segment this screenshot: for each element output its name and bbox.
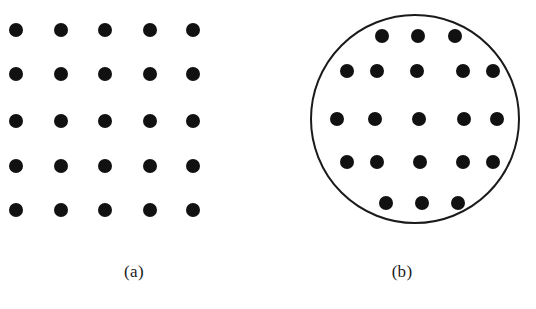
panel-a-dot xyxy=(143,203,157,217)
panel-b-dot xyxy=(413,155,427,169)
panel-a-dot xyxy=(186,159,200,173)
panel-a-dot xyxy=(98,23,112,37)
figure-root: (a) (b) xyxy=(0,0,536,309)
panel-b-dot xyxy=(370,64,384,78)
panel-b-dot xyxy=(451,196,465,210)
panel-a-dot xyxy=(9,114,23,128)
panel-b-dot xyxy=(340,64,354,78)
panel-b-dot xyxy=(368,112,382,126)
panel-b-dot xyxy=(375,29,389,43)
panel-a-dot xyxy=(98,203,112,217)
panel-b-dot xyxy=(448,29,462,43)
panel-b-dot xyxy=(410,64,424,78)
panel-a: (a) xyxy=(0,0,268,309)
panel-b-dot xyxy=(486,155,500,169)
panel-a-dot xyxy=(143,23,157,37)
panel-a-dot xyxy=(186,23,200,37)
panel-b-dot xyxy=(490,112,504,126)
panel-b-dot xyxy=(457,112,471,126)
panel-a-dot xyxy=(54,114,68,128)
panel-b-dot xyxy=(330,112,344,126)
panel-a-dot xyxy=(9,67,23,81)
panel-a-caption: (a) xyxy=(0,262,268,282)
panel-b-dot xyxy=(340,155,354,169)
panel-b-dot xyxy=(411,29,425,43)
panel-a-dot xyxy=(9,23,23,37)
panel-b-dot xyxy=(456,155,470,169)
panel-b-plot-area xyxy=(268,0,536,245)
panel-a-dot xyxy=(186,114,200,128)
panel-a-dot xyxy=(54,159,68,173)
panel-b-dot xyxy=(456,64,470,78)
panel-a-dot xyxy=(9,203,23,217)
panel-b-dot xyxy=(412,112,426,126)
panel-a-dot xyxy=(98,67,112,81)
panel-b-dot xyxy=(379,196,393,210)
panel-a-dot xyxy=(54,23,68,37)
panel-b-dot xyxy=(415,196,429,210)
panel-a-dot xyxy=(186,203,200,217)
panel-a-plot-area xyxy=(0,0,268,245)
panel-a-dot xyxy=(98,114,112,128)
panel-a-dot xyxy=(186,67,200,81)
panel-b-dot xyxy=(486,64,500,78)
panel-a-dot xyxy=(143,114,157,128)
panel-a-dot xyxy=(143,67,157,81)
panel-a-dot xyxy=(54,67,68,81)
panel-a-dot xyxy=(98,159,112,173)
panel-a-dot xyxy=(143,159,157,173)
panel-a-dot xyxy=(54,203,68,217)
panel-a-dot xyxy=(9,159,23,173)
panel-b: (b) xyxy=(268,0,536,309)
panel-b-caption: (b) xyxy=(268,262,536,282)
panel-b-dot xyxy=(370,155,384,169)
